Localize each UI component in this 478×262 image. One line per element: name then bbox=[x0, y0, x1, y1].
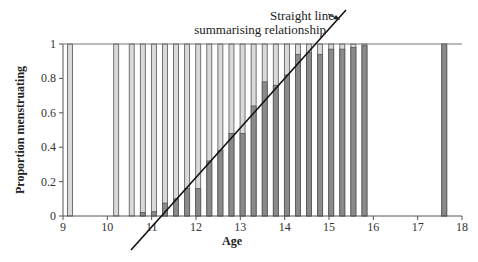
y-tick-label: 0.4 bbox=[41, 140, 56, 154]
x-axis-title: Age bbox=[222, 234, 243, 248]
bar bbox=[251, 44, 256, 216]
x-tick-label: 16 bbox=[367, 220, 379, 234]
y-axis-title: Proportion menstruating bbox=[13, 66, 27, 194]
y-tick-label: 0 bbox=[50, 209, 56, 223]
bar bbox=[284, 44, 289, 216]
x-tick-label: 13 bbox=[234, 220, 246, 234]
bar bbox=[340, 44, 345, 216]
bar bbox=[442, 44, 447, 216]
annotation-line2: summarising relationship bbox=[194, 22, 326, 37]
x-tick-label: 10 bbox=[101, 220, 113, 234]
bar bbox=[229, 44, 234, 216]
bar bbox=[240, 44, 245, 216]
y-tick-label: 0.6 bbox=[41, 106, 56, 120]
bar bbox=[196, 44, 201, 216]
bar bbox=[362, 44, 367, 216]
bar bbox=[114, 44, 119, 216]
chart-canvas: 910111213141516171800.20.40.60.81 Age Pr… bbox=[0, 0, 478, 262]
x-tick-label: 9 bbox=[60, 220, 66, 234]
bar-group bbox=[68, 44, 447, 216]
x-tick-label: 17 bbox=[412, 220, 424, 234]
x-tick-label: 18 bbox=[456, 220, 468, 234]
annotation-line1: Straight line bbox=[270, 8, 334, 23]
bar bbox=[318, 44, 323, 216]
x-tick-label: 15 bbox=[323, 220, 335, 234]
bar bbox=[68, 44, 73, 216]
bar bbox=[329, 44, 334, 216]
x-tick-label: 12 bbox=[190, 220, 202, 234]
y-tick-label: 0.2 bbox=[41, 175, 56, 189]
bar bbox=[129, 44, 134, 216]
bar bbox=[140, 44, 145, 216]
bar bbox=[262, 44, 267, 216]
bar bbox=[174, 44, 179, 216]
bar bbox=[218, 44, 223, 216]
bar bbox=[295, 44, 300, 216]
x-tick-label: 14 bbox=[279, 220, 291, 234]
bar bbox=[351, 44, 356, 216]
bar bbox=[162, 44, 167, 216]
bar bbox=[151, 44, 156, 216]
bar bbox=[273, 44, 278, 216]
y-tick-label: 1 bbox=[50, 37, 56, 51]
bar bbox=[207, 44, 212, 216]
y-tick-label: 0.8 bbox=[41, 71, 56, 85]
bar bbox=[307, 44, 312, 216]
